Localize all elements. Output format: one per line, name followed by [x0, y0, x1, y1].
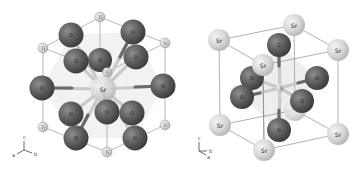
- ti-label: Ti: [104, 150, 109, 155]
- axis-b-label: b: [34, 151, 37, 157]
- right-panel: O O O Ti O O O Sr Sr Sr Sr: [198, 14, 349, 161]
- sr-label: Sr: [260, 62, 267, 69]
- o-label: O: [240, 94, 244, 100]
- sr-label: Sr: [216, 37, 223, 44]
- o-label: O: [131, 29, 135, 35]
- sr-label: Sr: [100, 86, 107, 93]
- axes-indicator-left: [17, 141, 32, 154]
- o-label: O: [315, 75, 319, 81]
- sr-label: Sr: [217, 122, 224, 129]
- sr-label: Sr: [261, 147, 268, 154]
- ti-label: Ti: [162, 123, 167, 128]
- left-panel: Sr O O O O O O O O O O O O: [12, 12, 176, 158]
- o-label: O: [74, 135, 78, 141]
- axis-c-label: c: [23, 134, 26, 140]
- o-label: O: [277, 127, 281, 133]
- o-label: O: [40, 85, 44, 91]
- o-label: O: [161, 83, 165, 89]
- axis-b-label: b: [209, 148, 212, 154]
- o-label: O: [277, 42, 281, 48]
- ti-label: Ti: [40, 46, 45, 51]
- ti-label: Ti: [40, 125, 45, 130]
- o-label: O: [300, 98, 304, 104]
- o-label: O: [134, 54, 138, 60]
- o-label: O: [130, 110, 134, 116]
- o-label: O: [69, 111, 73, 117]
- axes-indicator-right: [199, 142, 207, 155]
- o-label: O: [98, 57, 102, 63]
- ti-label: Ti: [97, 15, 102, 20]
- ti-label-center: Ti: [278, 86, 283, 91]
- o-label: O: [69, 32, 73, 38]
- sr-label: Sr: [335, 47, 342, 54]
- o-label: O: [74, 58, 78, 64]
- ti-label: Ti: [162, 41, 167, 46]
- o-label: O: [250, 75, 254, 81]
- o-label: O: [105, 109, 109, 115]
- sr-label: Sr: [291, 22, 298, 29]
- o-label: O: [133, 135, 137, 141]
- axis-a-label: a: [12, 152, 15, 158]
- ti-label-inner: Ti: [104, 70, 109, 75]
- crystal-structure-figure: Sr O O O O O O O O O O O O: [0, 0, 359, 173]
- axis-a-label: a: [207, 154, 210, 160]
- axis-c-label: c: [198, 135, 201, 141]
- sr-label: Sr: [335, 131, 342, 138]
